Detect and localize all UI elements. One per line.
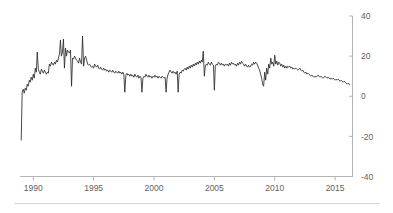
x-tick-label: 2010 (265, 183, 284, 193)
y-tick-label: -40 (361, 172, 374, 182)
x-tick-label: 2005 (205, 183, 224, 193)
y-tick-label: 20 (361, 51, 371, 61)
x-tick-label: 2000 (145, 183, 164, 193)
x-tick-label: 1990 (24, 183, 43, 193)
chart-figure: 199019952000200520102015 -40-2002040 (0, 0, 393, 213)
x-axis-ticks: 199019952000200520102015 (24, 177, 345, 194)
series-group (21, 36, 350, 140)
line-series-1 (21, 36, 350, 140)
y-tick-label: -20 (361, 132, 374, 142)
y-tick-label: 40 (361, 11, 371, 21)
x-tick-label: 1995 (84, 183, 103, 193)
x-tick-label: 2015 (326, 183, 345, 193)
y-tick-label: 0 (361, 91, 366, 101)
